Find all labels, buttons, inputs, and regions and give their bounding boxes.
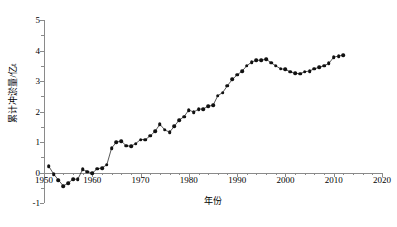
y-tick-minor <box>41 188 44 189</box>
x-tick-minor <box>121 173 122 175</box>
y-tick <box>40 20 44 21</box>
data-point <box>95 167 99 171</box>
data-point <box>269 61 273 65</box>
data-point <box>163 128 167 132</box>
data-point <box>124 144 128 148</box>
x-tick-minor <box>150 173 151 175</box>
y-axis-tick-labels: -1012345 <box>0 0 40 227</box>
data-point <box>216 94 220 98</box>
data-point <box>288 70 292 74</box>
data-point <box>235 73 239 77</box>
x-tick-label: 1990 <box>228 176 246 185</box>
data-point <box>139 138 143 142</box>
data-point <box>279 67 283 71</box>
data-point <box>284 68 288 72</box>
y-tick <box>40 142 44 143</box>
data-point <box>231 78 235 82</box>
data-point <box>308 69 312 73</box>
x-tick-label: 1960 <box>83 176 101 185</box>
data-point <box>182 115 186 119</box>
data-point <box>52 172 56 176</box>
x-tick-minor <box>73 173 74 175</box>
x-tick-label: 1950 <box>35 176 53 185</box>
y-tick-minor <box>41 35 44 36</box>
data-point <box>259 58 263 62</box>
data-point <box>173 124 177 128</box>
y-tick-minor <box>41 96 44 97</box>
x-tick-minor <box>102 173 103 175</box>
data-point <box>250 60 254 64</box>
x-tick-minor <box>363 173 364 175</box>
data-point <box>119 139 123 143</box>
x-tick-minor <box>266 173 267 175</box>
series-connector-line <box>0 0 397 227</box>
data-point <box>90 171 94 175</box>
y-tick <box>40 51 44 52</box>
data-point <box>226 84 230 88</box>
data-point <box>206 104 210 108</box>
y-tick-minor <box>41 157 44 158</box>
data-point <box>158 123 162 127</box>
data-point <box>110 146 114 150</box>
y-tick-label: -1 <box>33 199 41 208</box>
x-tick-label: 2000 <box>276 176 294 185</box>
y-tick <box>40 203 44 204</box>
x-tick-minor <box>343 173 344 175</box>
data-point <box>317 65 321 69</box>
data-point <box>115 140 119 144</box>
x-tick-minor <box>314 173 315 175</box>
x-tick-label: 2020 <box>373 176 391 185</box>
x-tick-minor <box>305 173 306 175</box>
x-tick-minor <box>170 173 171 175</box>
data-point <box>86 170 90 174</box>
data-point <box>177 118 181 122</box>
data-point <box>100 166 104 170</box>
x-axis-title: 年份 <box>204 196 222 206</box>
x-tick-minor <box>256 173 257 175</box>
data-point <box>202 107 206 111</box>
data-point <box>245 64 249 68</box>
data-point <box>274 64 278 68</box>
data-point <box>105 163 109 167</box>
x-tick-minor <box>218 173 219 175</box>
x-tick-minor <box>247 173 248 175</box>
data-point <box>168 130 172 134</box>
data-point <box>134 142 138 146</box>
data-point <box>337 54 341 58</box>
data-point <box>153 130 157 134</box>
data-point <box>144 138 148 142</box>
data-point <box>71 177 75 181</box>
x-tick-minor <box>295 173 296 175</box>
data-point <box>332 55 336 59</box>
x-tick-label: 2010 <box>325 176 343 185</box>
data-point <box>187 108 191 112</box>
chart-figure: 累计冲淤量/亿t -1012345 1950196019701980199020… <box>0 0 397 227</box>
data-point <box>303 70 307 74</box>
x-tick-minor <box>353 173 354 175</box>
data-point <box>313 67 317 71</box>
y-tick-minor <box>41 66 44 67</box>
y-tick <box>40 81 44 82</box>
data-point <box>298 72 302 76</box>
data-point <box>327 62 331 66</box>
x-axis-line <box>44 173 382 174</box>
data-point <box>197 107 201 111</box>
data-point <box>76 177 80 181</box>
data-point <box>293 72 297 76</box>
data-point <box>57 178 61 182</box>
x-tick-minor <box>199 173 200 175</box>
data-point <box>66 181 70 185</box>
data-point <box>62 184 66 188</box>
x-tick-minor <box>63 173 64 175</box>
data-point <box>255 58 259 62</box>
data-point <box>322 64 326 68</box>
data-point <box>148 134 152 138</box>
data-point <box>211 104 215 108</box>
data-point <box>221 91 225 95</box>
x-tick-minor <box>208 173 209 175</box>
x-tick-label: 1970 <box>132 176 150 185</box>
x-tick-label: 1980 <box>180 176 198 185</box>
x-tick-minor <box>112 173 113 175</box>
data-point <box>192 110 196 114</box>
data-point <box>81 168 85 172</box>
